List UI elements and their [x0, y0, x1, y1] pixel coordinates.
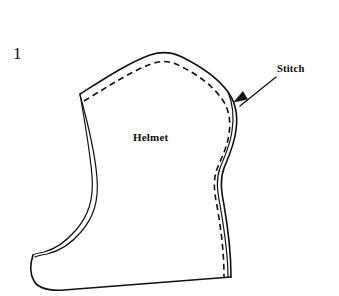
figure-number-label: 1 [13, 45, 22, 62]
helmet-part-label: Helmet [133, 132, 168, 143]
helmet-pattern-drawing [0, 0, 339, 296]
figure-canvas: 1 Helmet Stitch [0, 0, 339, 296]
stitch-callout-label: Stitch [277, 64, 304, 75]
drawing-background [0, 0, 339, 296]
